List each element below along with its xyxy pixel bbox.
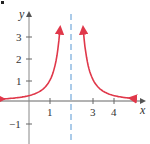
curve-right-branch [83, 30, 132, 99]
x-tick-label: 1 [47, 106, 53, 118]
y-tick-label: 3 [16, 31, 22, 43]
y-tick-label: −1 [9, 118, 21, 130]
x-tick-label: 3 [90, 106, 96, 118]
x-axis-label: x [139, 103, 146, 117]
y-tick-label: 2 [16, 53, 22, 65]
function-graph: 1 3 4 3 2 1 −1 x y [0, 0, 150, 144]
y-tick-label: 1 [16, 75, 22, 87]
x-tick-label: 4 [111, 106, 117, 118]
y-axis-label: y [18, 7, 25, 21]
curve-left-branch [1, 30, 60, 99]
